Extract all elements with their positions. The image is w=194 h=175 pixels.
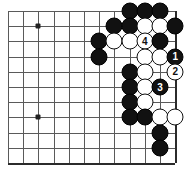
grid-line-horizontal <box>8 133 175 134</box>
black-stone[interactable] <box>167 18 184 35</box>
white-stone[interactable] <box>167 109 184 126</box>
go-board[interactable]: 4123 <box>0 0 194 175</box>
grid-line-vertical <box>69 11 70 163</box>
move-number-label: 4 <box>142 36 148 46</box>
grid-line-vertical <box>54 11 55 163</box>
move-number-label: 3 <box>157 82 163 92</box>
move-number-label: 2 <box>172 67 178 77</box>
move-number-label: 1 <box>172 52 178 62</box>
move-stone-2[interactable]: 2 <box>167 63 184 80</box>
grid-line-horizontal <box>8 148 175 149</box>
hoshi-star-point <box>36 24 41 29</box>
grid-line-vertical <box>8 11 9 163</box>
move-stone-3[interactable]: 3 <box>152 79 169 96</box>
hoshi-star-point <box>36 115 41 120</box>
black-stone[interactable] <box>91 48 108 65</box>
board-edge-bottom <box>8 163 175 165</box>
grid-line-vertical <box>23 11 24 163</box>
black-stone[interactable] <box>152 139 169 156</box>
grid-line-vertical <box>38 11 39 163</box>
grid-line-vertical <box>84 11 85 163</box>
